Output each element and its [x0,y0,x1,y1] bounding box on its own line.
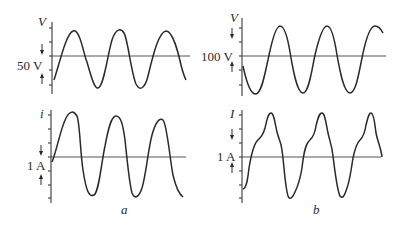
panel-a-voltage: V 50 V [17,14,190,94]
scale-arrow-down-icon [230,129,234,140]
axis-label-i-a: i [40,106,44,121]
caption-a: a [121,202,128,217]
panel-b-current: I 1 A b [217,106,382,217]
scale-label-50v: 50 V [17,58,43,73]
axis-label-v-b: V [230,10,240,25]
panel-a-current: i 1 A a [27,106,186,217]
voltage-waveform-b [243,26,383,94]
scale-label-1a-b: 1 A [217,149,236,164]
current-waveform-a [52,112,183,197]
scale-label-100v: 100 V [201,49,234,64]
scale-label-1a-a: 1 A [27,158,46,173]
scale-arrow-up-icon [39,174,43,185]
voltage-waveform-a [54,30,186,88]
caption-b: b [313,202,320,217]
scale-arrow-up-icon [40,73,44,84]
axis-label-v-a: V [38,14,48,29]
scale-arrow-down-icon [39,145,43,156]
panel-b-voltage: V 100 V [201,10,386,96]
scale-arrow-down-icon [230,28,234,39]
waveform-diagram: V 50 V i 1 A a [0,0,402,225]
scale-arrow-down-icon [40,44,44,55]
current-waveform-b [243,113,382,198]
axis-label-i-b: I [229,106,235,121]
